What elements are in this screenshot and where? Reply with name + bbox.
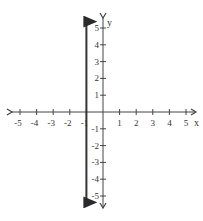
y-tick-label: 4	[95, 40, 100, 50]
x-tick-label: -5	[14, 118, 22, 128]
x-tick-label: 3	[151, 118, 156, 128]
x-tick-label: 5	[184, 118, 189, 128]
x-tick-label: 4	[167, 118, 172, 128]
coordinate-plane: -5-4-3-2-112345 54321-1-2-3-4-5 x y	[0, 0, 203, 221]
y-tick-label: 5	[95, 23, 100, 33]
y-tick-label: -1	[92, 124, 100, 134]
y-axis-label: y	[107, 17, 112, 28]
x-tick-label: -4	[31, 118, 39, 128]
y-tick-label: 3	[95, 57, 100, 67]
y-tick-label: -5	[92, 191, 100, 201]
x-tick-label: -3	[47, 118, 55, 128]
y-tick-label: 1	[95, 90, 100, 100]
y-tick-label: 2	[95, 73, 100, 83]
x-tick-label: 2	[134, 118, 139, 128]
y-tick-label: -3	[92, 157, 100, 167]
y-tick-label: -2	[92, 141, 100, 151]
x-axis-label: x	[194, 117, 199, 128]
y-tick-label: -4	[92, 174, 100, 184]
x-tick-label: 1	[117, 118, 122, 128]
x-tick-label: -2	[64, 118, 72, 128]
